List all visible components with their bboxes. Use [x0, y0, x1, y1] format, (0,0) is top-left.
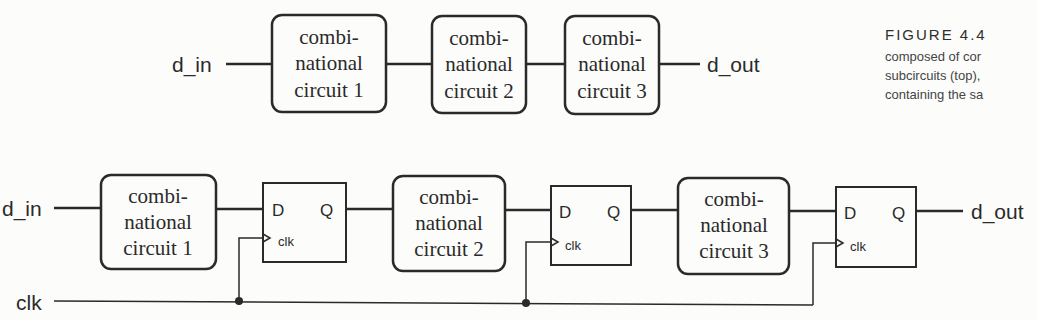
flipflop-1 [263, 183, 346, 262]
bottom-block-1-line1: combi- [128, 184, 187, 208]
caption-line-1: composed of cor [885, 47, 1038, 66]
top-block-3-line2: national [578, 52, 646, 76]
ff1-d-label: D [272, 201, 284, 220]
clock-junction-dot-2 [522, 299, 530, 307]
clock-edge-icon-1 [263, 234, 270, 242]
clock-branch-1 [239, 238, 263, 301]
top-block-1-line2: national [295, 51, 363, 75]
clock-edge-icon-2 [551, 238, 558, 246]
ff1-q-label: Q [320, 201, 333, 220]
ff1-clk-label: clk [278, 234, 294, 249]
top-output-label: d_out [707, 53, 760, 77]
clock-edge-icon-3 [836, 239, 843, 247]
top-block-2-line2: national [445, 52, 513, 76]
ff3-d-label: D [844, 204, 856, 223]
flipflop-3 [836, 187, 916, 267]
figure-label: FIGURE 4.4 [885, 26, 1038, 43]
bottom-input-label: d_in [2, 197, 42, 221]
top-block-2-line3: circuit 2 [444, 79, 513, 103]
bottom-block-2-line1: combi- [419, 185, 478, 209]
top-input-label: d_in [172, 53, 212, 77]
top-block-1-line3: circuit 1 [294, 78, 363, 102]
ff3-q-label: Q [892, 204, 905, 223]
ff2-d-label: D [559, 203, 571, 222]
bottom-block-2-line2: national [415, 211, 483, 235]
ff3-clk-label: clk [850, 239, 866, 254]
bottom-output-label: d_out [971, 200, 1024, 224]
clock-junction-dot-1 [235, 297, 243, 305]
bottom-block-3-line2: national [700, 213, 768, 237]
clock-branch-3 [813, 243, 836, 305]
bottom-block-3-line1: combi- [704, 187, 763, 211]
figure-caption: FIGURE 4.4 composed of cor subcircuits (… [885, 26, 1038, 104]
clock-input-label: clk [16, 291, 42, 314]
bottom-block-1-line2: national [124, 210, 192, 234]
clock-wire [54, 301, 813, 305]
ff2-q-label: Q [607, 203, 620, 222]
ff2-clk-label: clk [565, 238, 581, 253]
caption-line-2: subcircuits (top), [885, 66, 1038, 85]
clock-branch-2 [526, 242, 551, 303]
bottom-block-1-line3: circuit 1 [123, 236, 192, 260]
top-block-3-line1: combi- [582, 26, 641, 50]
top-block-2-line1: combi- [449, 26, 508, 50]
top-block-1-line1: combi- [299, 25, 358, 49]
caption-line-3: containing the sa [885, 85, 1038, 104]
top-block-3-line3: circuit 3 [577, 79, 646, 103]
bottom-block-3-line3: circuit 3 [699, 239, 768, 263]
pipeline-diagram: d_in d_out combi- national circuit 1 com… [0, 0, 1038, 320]
flipflop-2 [551, 186, 631, 265]
bottom-block-2-line3: circuit 2 [414, 237, 483, 261]
